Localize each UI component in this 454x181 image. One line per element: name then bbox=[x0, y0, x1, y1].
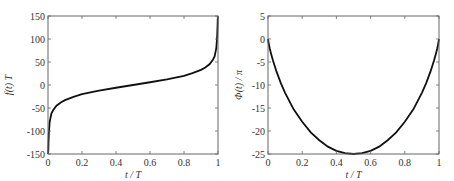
y-tick-label: 100 bbox=[30, 34, 45, 45]
y-tick-label: -25 bbox=[252, 149, 265, 160]
x-tick-label: 0 bbox=[46, 157, 51, 168]
x-tick-label: 0.4 bbox=[110, 157, 123, 168]
x-tick-label: 0.2 bbox=[76, 157, 89, 168]
right-x-axis-label: t / T bbox=[345, 169, 363, 180]
x-tick-label: 0 bbox=[266, 157, 271, 168]
y-tick-label: -5 bbox=[257, 57, 265, 68]
left-y-axis-label: f(t) T bbox=[3, 73, 15, 95]
right-y-axis-label: Φ(t) / π bbox=[233, 69, 245, 100]
right-curve bbox=[268, 39, 439, 154]
y-tick-label: 0 bbox=[40, 80, 45, 91]
y-tick-label: -10 bbox=[252, 80, 265, 91]
left-plot: 00.20.40.60.81150100500-50-100-150t / Tf… bbox=[3, 11, 221, 181]
y-tick-label: 5 bbox=[260, 11, 265, 22]
y-tick-label: 0 bbox=[260, 34, 265, 45]
left-curve bbox=[48, 16, 218, 154]
y-tick-label: 50 bbox=[35, 57, 45, 68]
right-plot: 00.20.40.60.8150-5-10-15-20-25t / TΦ(t) … bbox=[233, 11, 442, 181]
x-tick-label: 1 bbox=[437, 157, 442, 168]
right-axes-frame bbox=[268, 16, 439, 154]
x-tick-label: 0.2 bbox=[296, 157, 309, 168]
left-x-axis-label: t / T bbox=[125, 169, 143, 180]
y-tick-label: -15 bbox=[252, 103, 265, 114]
x-tick-label: 0.6 bbox=[364, 157, 377, 168]
y-tick-label: -100 bbox=[27, 126, 45, 137]
x-tick-label: 0.6 bbox=[144, 157, 157, 168]
y-tick-label: -150 bbox=[27, 149, 45, 160]
y-tick-label: -20 bbox=[252, 126, 265, 137]
y-tick-label: 150 bbox=[30, 11, 45, 22]
y-tick-label: -50 bbox=[32, 103, 45, 114]
figure: 00.20.40.60.81150100500-50-100-150t / Tf… bbox=[0, 0, 454, 181]
x-tick-label: 0.8 bbox=[178, 157, 191, 168]
x-tick-label: 0.8 bbox=[399, 157, 412, 168]
x-tick-label: 0.4 bbox=[330, 157, 343, 168]
x-tick-label: 1 bbox=[216, 157, 221, 168]
